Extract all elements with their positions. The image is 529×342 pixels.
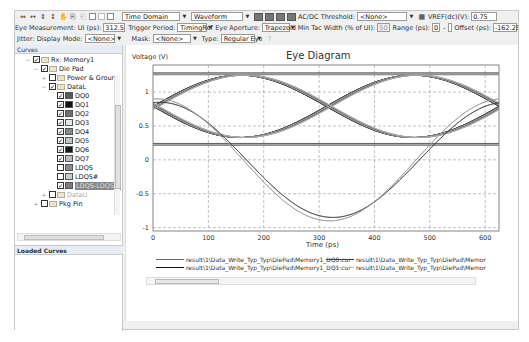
eye-plot[interactable]: 0100200300400500600-1-0.500.51 <box>126 45 519 245</box>
ui-input[interactable]: 312.5 <box>103 23 125 32</box>
collapse-icon[interactable]: − <box>25 57 31 63</box>
legend-scroll-thumb[interactable] <box>155 279 219 284</box>
legend-item[interactable]: result\1\Data_Write_Typ_Typ\DiePad\Memor <box>326 264 486 271</box>
domain-select-chevron-icon[interactable]: ▼ <box>181 12 188 21</box>
tree-item[interactable]: LDQS-LDQS# <box>49 181 121 190</box>
tree-item-checkbox[interactable] <box>57 119 64 126</box>
color-swatch[interactable] <box>65 128 73 135</box>
range-from-input[interactable]: 0 <box>432 23 440 32</box>
vref-input[interactable]: 0.75 <box>471 12 497 21</box>
domain-select[interactable]: Time Domain <box>122 12 180 21</box>
checkbox-3-icon[interactable] <box>107 13 114 20</box>
view-select-chevron-icon[interactable]: ▼ <box>244 12 251 21</box>
tree-item-checkbox[interactable] <box>49 191 56 198</box>
tree-item[interactable]: DQ7 <box>49 154 89 163</box>
tree-item-checkbox[interactable] <box>57 137 64 144</box>
tree-item[interactable]: −Rx: Memory1 <box>25 55 94 64</box>
offset-input[interactable]: -162.25 <box>493 23 517 32</box>
tree-item-checkbox[interactable] <box>57 128 64 135</box>
help-icon[interactable]: ? <box>266 35 274 43</box>
grid-layout-3-icon[interactable] <box>276 13 285 21</box>
tree-item[interactable]: −DataL <box>41 82 86 91</box>
color-swatch[interactable] <box>65 137 73 144</box>
tree-item-checkbox[interactable] <box>57 92 64 99</box>
legend-horizontal-scrollbar[interactable] <box>146 277 476 285</box>
zoom-in-x-icon[interactable]: ⇔ <box>19 13 27 21</box>
curves-vertical-scroll-thumb[interactable] <box>115 105 121 189</box>
tree-item-checkbox[interactable] <box>57 173 64 180</box>
tree-item-checkbox[interactable] <box>49 74 56 81</box>
zoom-out-x-icon[interactable]: ↔ <box>29 13 37 21</box>
zoom-in-y-icon[interactable]: ⇕ <box>39 13 47 21</box>
mask-select-chevron-icon[interactable]: ▼ <box>192 34 199 43</box>
tree-item[interactable]: DQ6 <box>49 145 89 154</box>
curves-horizontal-scroll-thumb[interactable] <box>24 235 104 240</box>
color-swatch[interactable] <box>65 173 73 180</box>
min-tac-width-input[interactable]: 50 <box>377 23 389 32</box>
tree-item[interactable]: DQ4 <box>49 127 89 136</box>
type-select-chevron-icon[interactable]: ▼ <box>256 34 263 43</box>
color-swatch[interactable] <box>65 110 73 117</box>
checkbox-2-icon[interactable] <box>98 13 105 20</box>
mask-select[interactable]: <None> <box>153 34 191 43</box>
view-select[interactable]: Waveform <box>191 12 243 21</box>
paste-icon[interactable]: ⎗ <box>79 13 87 21</box>
collapse-icon[interactable]: − <box>33 66 39 72</box>
grid-layout-2-icon[interactable] <box>265 13 274 21</box>
expand-icon[interactable]: + <box>33 201 39 207</box>
acdc-select-chevron-icon[interactable]: ▼ <box>408 12 415 21</box>
range-to-input[interactable] <box>448 23 452 32</box>
copy-icon[interactable]: ⎘ <box>69 13 77 21</box>
grid-layout-4-icon[interactable] <box>287 13 296 21</box>
eye-type-select[interactable]: Regular Eye <box>221 34 255 43</box>
legend-item[interactable]: result\1\Data_Write_Typ_Typ\DiePad\Memor <box>326 256 486 263</box>
tree-item-checkbox[interactable] <box>57 110 64 117</box>
tree-item[interactable]: DQ1 <box>49 100 89 109</box>
tree-item-checkbox[interactable] <box>49 83 56 90</box>
jitter-select-chevron-icon[interactable]: ▼ <box>116 34 123 43</box>
acdc-threshold-select[interactable]: <None> <box>357 12 407 21</box>
tree-item[interactable]: DQ2 <box>49 109 89 118</box>
curves-horizontal-scrollbar[interactable] <box>17 233 121 241</box>
expand-icon[interactable]: + <box>41 75 47 81</box>
eye-aperture-select[interactable]: Trapezoid <box>262 23 290 32</box>
tree-item[interactable]: DQ5 <box>49 136 89 145</box>
tree-item[interactable]: DQ3 <box>49 118 89 127</box>
trigger-period-select[interactable]: TimingRef <box>177 23 207 32</box>
pan-icon[interactable]: ✋ <box>59 13 67 21</box>
tree-item-checkbox[interactable] <box>57 101 64 108</box>
aperture-select-chevron-icon[interactable]: ▼ <box>291 23 295 32</box>
legend-item[interactable]: result\1\Data_Write_Typ_Typ\DiePad\Memor… <box>156 264 351 271</box>
tree-item[interactable]: LDQS <box>49 163 93 172</box>
tree-item[interactable]: +Pkg Pin <box>33 199 83 208</box>
color-swatch[interactable] <box>65 182 73 189</box>
collapse-icon[interactable]: − <box>41 84 47 90</box>
tree-item-checkbox[interactable] <box>57 155 64 162</box>
tree-item-checkbox[interactable] <box>57 182 64 189</box>
tree-item-checkbox[interactable] <box>57 164 64 171</box>
jitter-display-mode-select[interactable]: <None> <box>85 34 115 43</box>
tree-item-checkbox[interactable] <box>41 200 48 207</box>
tree-item[interactable]: +Power & Grour <box>41 73 114 82</box>
checkbox-1-icon[interactable] <box>89 13 96 20</box>
tree-item[interactable]: LDQS# <box>49 172 98 181</box>
curves-vertical-scrollbar[interactable] <box>114 75 120 215</box>
color-swatch[interactable] <box>65 164 73 171</box>
table-icon[interactable]: ▦ <box>418 13 426 21</box>
tree-item[interactable]: −Die Pad <box>33 64 84 73</box>
color-swatch[interactable] <box>65 119 73 126</box>
legend-item[interactable]: result\1\Data_Write_Typ_Typ\DiePad\Memor… <box>156 256 351 263</box>
color-swatch[interactable] <box>65 101 73 108</box>
tree-item[interactable]: +DataU <box>41 190 87 199</box>
grid-layout-1-icon[interactable] <box>254 13 263 21</box>
color-swatch[interactable] <box>65 155 73 162</box>
tree-item-checkbox[interactable] <box>33 56 40 63</box>
color-swatch[interactable] <box>65 146 73 153</box>
tree-item[interactable]: DQ0 <box>49 91 89 100</box>
color-swatch[interactable] <box>65 92 73 99</box>
expand-icon[interactable]: + <box>41 192 47 198</box>
zoom-out-y-icon[interactable]: ↕ <box>49 13 57 21</box>
tree-item-checkbox[interactable] <box>41 65 48 72</box>
tree-item-checkbox[interactable] <box>57 146 64 153</box>
trigger-select-chevron-icon[interactable]: ▼ <box>208 23 212 32</box>
